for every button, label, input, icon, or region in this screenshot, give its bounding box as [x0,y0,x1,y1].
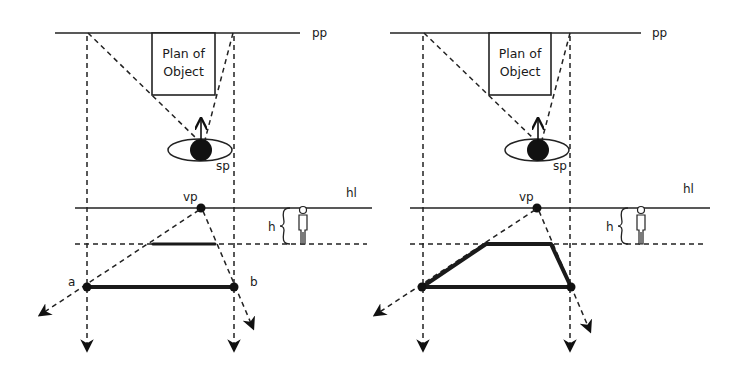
height-brace [618,208,628,244]
left-panel: pp Plan of Object sp hl vp [40,26,372,350]
receding-ray-right [203,211,253,328]
object-perspective-trapezoid [422,244,571,287]
plan-box-label-line2: Object [500,64,541,79]
horizon-line-label: hl [683,182,694,196]
horizon-line-label: hl [346,186,357,200]
corner-front-left [418,283,427,292]
vanishing-point-label: vp [519,190,534,204]
person-figure-icon [299,207,307,245]
station-point-label: sp [553,159,567,173]
picture-plane-label: pp [312,26,327,40]
eye-icon [505,120,569,161]
point-a [83,283,92,292]
perspective-diagram: pp Plan of Object sp hl vp [0,0,751,377]
height-label: h [268,220,276,234]
plan-box-label-line1: Plan of [162,46,205,61]
receding-ray-left [40,210,199,315]
point-b [230,283,239,292]
height-brace [280,208,290,244]
height-label: h [606,220,614,234]
eye-icon [168,120,232,161]
point-a-label: a [68,275,75,289]
corner-front-right [567,283,576,292]
plan-box-label-line1: Plan of [499,46,542,61]
vanishing-point-label: vp [183,190,198,204]
right-panel: pp Plan of Object sp hl vp [375,26,710,350]
point-b-label: b [250,275,258,289]
plan-box-label-line2: Object [163,64,204,79]
picture-plane-label: pp [652,26,667,40]
person-figure-icon [637,207,645,245]
station-point-label: sp [216,159,230,173]
